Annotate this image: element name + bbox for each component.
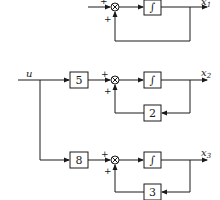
row1-summing-junction: [111, 3, 119, 11]
row2-output-label: x2: [201, 67, 212, 80]
row3-output-label: x3: [201, 147, 212, 160]
row2-gain-value: 5: [76, 74, 83, 87]
row3-feedback-gain-value: 3: [149, 186, 156, 199]
row2-integrator-symbol: ∫: [150, 74, 156, 87]
row-2: u 5 + + ∫ x2 2: [18, 67, 212, 121]
row3-feedback-to-sum: [115, 165, 144, 192]
row3-integrator-symbol: ∫: [150, 154, 156, 167]
row2-feedback-gain-value: 2: [149, 107, 156, 120]
row3-plus-sign-bottom: +: [104, 166, 112, 176]
row1-integrator-symbol: ∫: [150, 1, 156, 14]
block-diagram: + + ∫ x1 u 5 + + ∫ x2 2: [0, 0, 220, 200]
row-1: + + ∫ x1: [88, 0, 211, 41]
row2-feedback-to-gain: [162, 80, 190, 113]
input-branch-to-row3: [40, 80, 69, 160]
row2-plus-sign-top: +: [101, 69, 109, 79]
row2-plus-sign-bottom: +: [104, 86, 112, 96]
row3-summing-junction: [111, 156, 119, 164]
row2-summing-junction: [111, 76, 119, 84]
row1-plus-sign-bottom: +: [104, 14, 112, 24]
row-3: 8 + + ∫ x3 3: [70, 147, 212, 200]
input-label-u: u: [26, 68, 32, 79]
row3-feedback-to-gain: [162, 160, 190, 192]
row3-gain-value: 8: [76, 154, 83, 167]
row2-feedback-to-sum: [115, 85, 144, 113]
row1-output-label: x1: [201, 0, 211, 9]
row3-plus-sign-top: +: [101, 149, 109, 159]
row1-plus-sign-top: +: [100, 0, 108, 6]
